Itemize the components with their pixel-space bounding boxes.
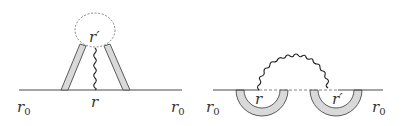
label-r0-right: r0	[372, 98, 386, 117]
label-r0-left: r0	[206, 98, 220, 117]
label-r-vertex-left: r	[255, 90, 263, 108]
diagram-canvas: r0 r r′ r0 r0 r r′ r0	[0, 0, 404, 126]
left-leg-band	[61, 44, 86, 90]
label-r0-left: r0	[17, 98, 31, 117]
tadpole-diagram: r0 r r′ r0	[17, 13, 185, 117]
right-leg-band	[104, 44, 130, 90]
wavy-interaction-arc	[258, 54, 329, 90]
label-r-prime-loop: r′	[89, 28, 100, 46]
label-r-prime-vertex-right: r′	[332, 90, 343, 108]
exchange-diagram: r0 r r′ r0	[206, 54, 386, 117]
label-r-vertex: r	[91, 93, 99, 111]
wavy-interaction-line	[94, 48, 97, 90]
label-r0-right: r0	[171, 98, 185, 117]
